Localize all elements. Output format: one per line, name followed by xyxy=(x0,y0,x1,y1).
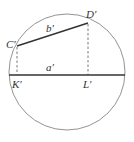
label-d-prime: D′ xyxy=(85,8,97,20)
label-c-prime: C′ xyxy=(6,38,16,50)
label-k-prime: K′ xyxy=(11,78,22,90)
geometry-diagram: C′ D′ b′ a′ K′ L′ xyxy=(0,0,134,142)
label-l-prime: L′ xyxy=(82,78,92,90)
label-b-prime: b′ xyxy=(46,22,55,34)
circle xyxy=(9,14,125,130)
label-a-prime: a′ xyxy=(46,61,55,73)
